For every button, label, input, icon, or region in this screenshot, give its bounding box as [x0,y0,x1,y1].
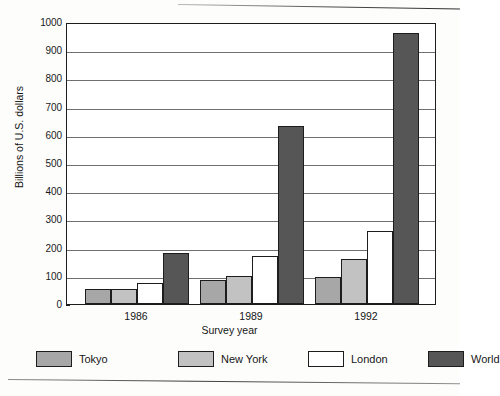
y-tick-label: 600 [22,131,62,141]
gridline [67,193,435,194]
gridline [67,165,435,166]
legend-swatch-new-york [178,351,214,367]
legend-item-new-york[interactable]: New York [178,348,267,370]
bar-london-1992 [367,231,393,304]
bar-new-york-1989 [226,276,252,304]
x-axis-title: Survey year [0,324,459,336]
bar-new-york-1986 [111,289,137,304]
bar-world-1986 [163,253,189,304]
y-tick-label: 400 [22,187,62,197]
x-tick-label-1986: 1986 [106,310,166,322]
x-tick-label-1992: 1992 [336,310,396,322]
y-tick-label: 0 [22,300,62,310]
gridline [67,221,435,222]
legend-item-world[interactable]: World [428,348,500,370]
bar-tokyo-1989 [200,280,226,304]
bar-london-1989 [252,256,278,305]
bar-tokyo-1986 [85,289,111,305]
bar-london-1986 [137,283,163,304]
y-tick-label: 800 [22,74,62,84]
legend-label: London [351,353,388,365]
legend-item-london[interactable]: London [308,348,388,370]
legend-swatch-london [308,351,344,367]
legend-label: New York [221,353,267,365]
bar-tokyo-1992 [315,277,341,304]
y-axis-tick-labels: 01002003004005006007008009001000 [22,0,62,396]
bar-world-1989 [278,126,304,304]
legend-label: Tokyo [79,353,108,365]
gridline [67,52,435,53]
legend-swatch-tokyo [36,351,72,367]
y-tick-label: 900 [22,46,62,56]
y-tick-label: 300 [22,215,62,225]
plot-area [66,23,436,305]
gridline [67,109,435,110]
legend-item-tokyo[interactable]: Tokyo [36,348,108,370]
bar-new-york-1992 [341,259,367,304]
y-tick-label: 1000 [22,18,62,28]
y-tick-label: 500 [22,159,62,169]
legend-swatch-world [428,351,464,367]
y-tick-label: 100 [22,272,62,282]
bar-world-1992 [393,33,419,304]
gridline [67,137,435,138]
y-tick-label: 700 [22,103,62,113]
legend-label: World [471,353,500,365]
chart-legend: TokyoNew YorkLondonWorld [36,348,436,372]
x-tick-label-1989: 1989 [221,310,281,322]
y-tick-label: 200 [22,244,62,254]
gridline [67,80,435,81]
